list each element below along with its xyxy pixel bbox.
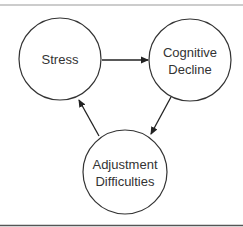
node-stress-label: Stress — [42, 52, 79, 67]
arrow-cognitive-decline-to-adjustment — [151, 97, 171, 134]
node-cognitive-decline-label-line2: Decline — [168, 62, 211, 77]
node-cognitive-decline: Cognitive Decline — [149, 19, 231, 101]
diagram-frame: Stress Cognitive Decline Adjustment Diff… — [0, 0, 243, 227]
node-stress: Stress — [19, 18, 101, 100]
arrow-adjustment-to-stress — [79, 100, 99, 136]
node-adjustment-label-line1: Adjustment — [92, 157, 157, 172]
node-adjustment-label-line2: Difficulties — [95, 174, 155, 189]
cycle-diagram: Stress Cognitive Decline Adjustment Diff… — [0, 0, 243, 227]
node-cognitive-decline-label-line1: Cognitive — [163, 45, 217, 60]
node-adjustment-difficulties: Adjustment Difficulties — [83, 130, 167, 214]
